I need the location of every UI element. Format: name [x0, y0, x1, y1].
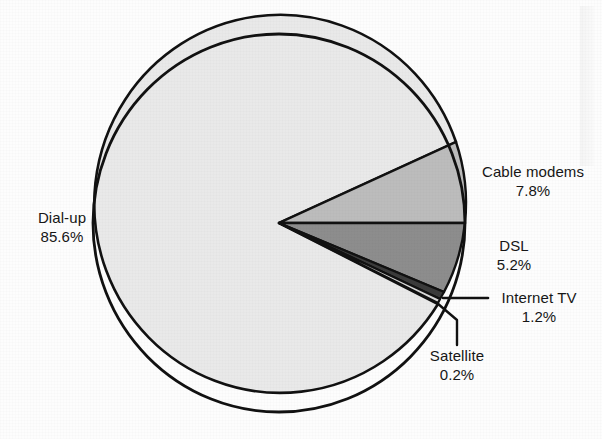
slice-label-dial-up: Dial-up 85.6%	[14, 209, 110, 247]
slice-label-internet-tv-name: Internet TV	[489, 289, 589, 308]
slice-label-cable-modems-name: Cable modems	[474, 163, 592, 182]
slice-label-satellite: Satellite 0.2%	[408, 347, 506, 385]
slice-label-dial-up-value: 85.6%	[14, 228, 110, 247]
slice-label-satellite-name: Satellite	[408, 347, 506, 366]
slice-label-internet-tv: Internet TV 1.2%	[489, 289, 589, 327]
slice-label-dial-up-name: Dial-up	[14, 209, 110, 228]
slice-label-dsl-value: 5.2%	[478, 256, 550, 275]
slice-label-cable-modems-value: 7.8%	[474, 182, 592, 201]
slice-label-dsl-name: DSL	[478, 237, 550, 256]
slice-label-cable-modems: Cable modems 7.8%	[474, 163, 592, 201]
leader-line-satellite	[437, 303, 457, 345]
slice-label-internet-tv-value: 1.2%	[489, 308, 589, 327]
chart-page: Dial-up 85.6% Cable modems 7.8% DSL 5.2%…	[0, 0, 602, 439]
slice-label-satellite-value: 0.2%	[408, 366, 506, 385]
slice-label-dsl: DSL 5.2%	[478, 237, 550, 275]
